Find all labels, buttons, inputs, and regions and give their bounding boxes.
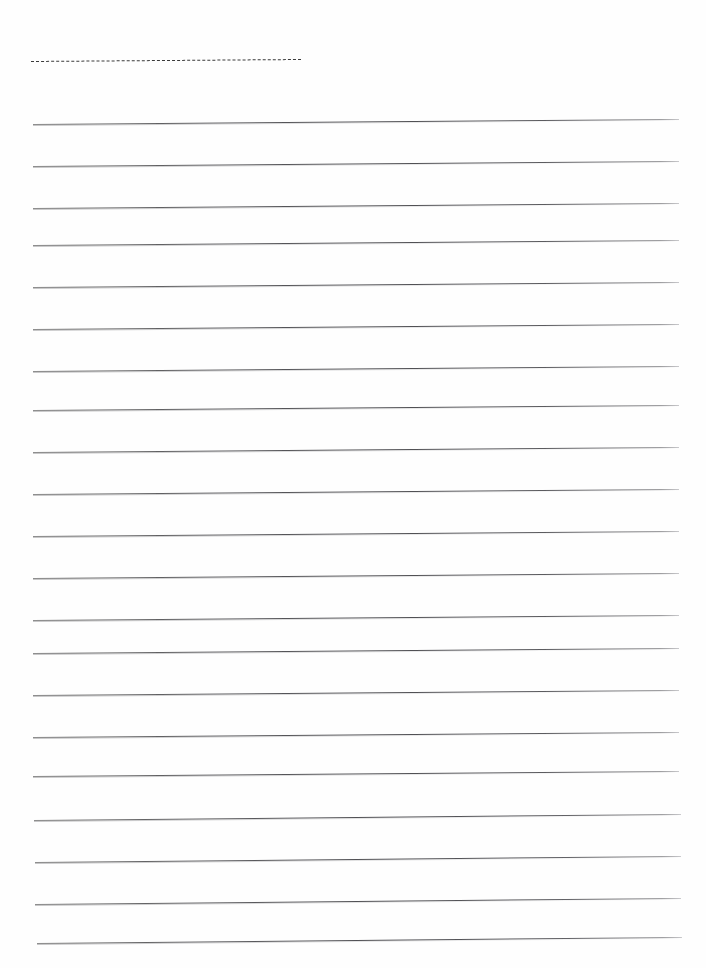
- scanned-page: [0, 0, 706, 968]
- paper-surface: [0, 0, 706, 968]
